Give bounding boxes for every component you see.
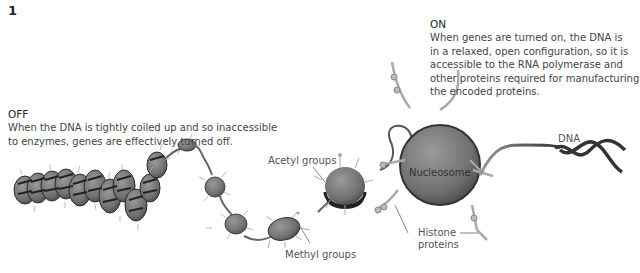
on-text-line3: accessible to the RNA polymerase and xyxy=(430,58,639,72)
dna-helix xyxy=(480,141,625,175)
on-text-line2: in a relaxed, open configuration, so it … xyxy=(430,45,639,59)
figure-number: 1 xyxy=(8,3,17,18)
on-block: ON When genes are turned on, the DNA is … xyxy=(430,18,639,99)
nucleosome-small-2 xyxy=(199,172,230,201)
off-text-line2: to enzymes, genes are effectively turned… xyxy=(8,135,277,149)
nucleosome-methylated xyxy=(266,211,310,248)
histone-proteins-label: Histone proteins xyxy=(418,227,459,251)
on-text-line5: the encoded proteins. xyxy=(430,85,639,99)
histone-label-line1: Histone xyxy=(418,227,459,239)
nucleosome-small-3 xyxy=(206,210,253,239)
off-title: OFF xyxy=(8,108,277,121)
on-text-line4: other proteins required for manufacturin… xyxy=(430,72,639,86)
off-text-line1: When the DNA is tightly coiled up and so… xyxy=(8,121,277,135)
on-text-line1: When genes are turned on, the DNA is xyxy=(430,31,639,45)
coiled-chromatin xyxy=(14,144,171,230)
off-block: OFF When the DNA is tightly coiled up an… xyxy=(8,108,277,148)
histone-label-line2: proteins xyxy=(418,239,459,251)
on-title: ON xyxy=(430,18,639,31)
nucleosome-label: Nucleosome xyxy=(409,167,471,179)
dna-label: DNA xyxy=(558,133,580,145)
acetyl-groups-label: Acetyl groups xyxy=(268,155,336,167)
methyl-groups-label: Methyl groups xyxy=(285,249,356,261)
